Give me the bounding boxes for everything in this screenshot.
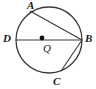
- point-label-b: B: [85, 33, 92, 44]
- center-point-dot: [40, 36, 45, 41]
- segment-chord-AB: [30, 11, 82, 40]
- geometry-figure: A B C D Q: [0, 0, 96, 89]
- point-label-a: A: [27, 0, 34, 11]
- point-label-c: C: [53, 76, 60, 87]
- center-label-q: Q: [43, 43, 51, 54]
- point-label-d: D: [3, 33, 11, 44]
